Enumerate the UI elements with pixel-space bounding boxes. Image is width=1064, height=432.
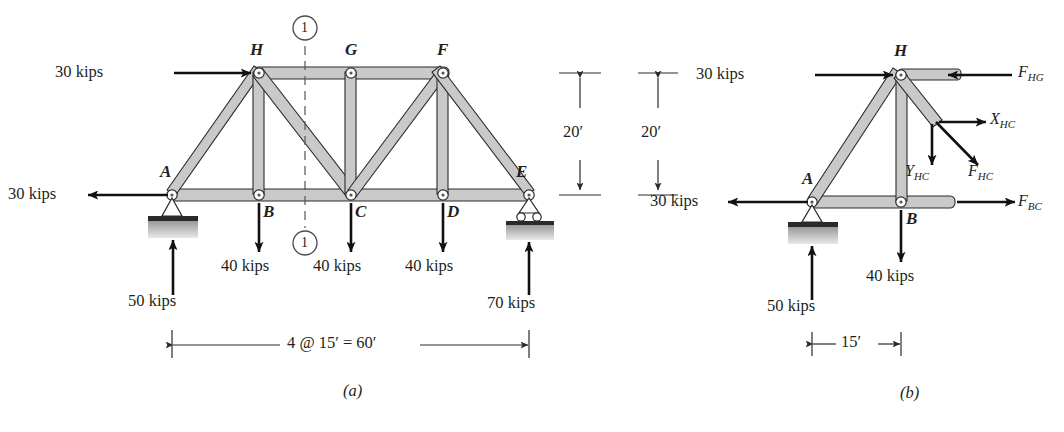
section-marker-top-label: 1 <box>301 21 308 35</box>
caption-b: (b) <box>900 385 919 402</box>
label-50kips-a: 50 kips <box>128 293 176 310</box>
force-label-XHC: XHC <box>990 111 1015 130</box>
label-30kips-left-a: 30 kips <box>8 186 56 203</box>
joint-label-D: D <box>447 203 459 220</box>
label-40kips-B: 40 kips <box>221 258 269 275</box>
joint-label-b-A: A <box>802 170 813 187</box>
label-30kips-top-a: 30 kips <box>55 64 103 81</box>
label-40kips-C: 40 kips <box>313 258 361 275</box>
truss-vector-layer <box>0 0 1064 432</box>
force-symbol: F <box>1018 192 1028 209</box>
pin-support-A-b <box>788 205 838 244</box>
force-subscript: BC <box>1028 200 1042 212</box>
joint-label-G: G <box>345 41 357 58</box>
member-GC <box>345 72 356 194</box>
joint-label-H: H <box>250 41 263 58</box>
member-HC <box>253 68 355 196</box>
label-b-30kips-left: 30 kips <box>650 193 698 210</box>
dimension-label-height-b: 20′ <box>641 124 661 141</box>
member-b-AH <box>808 68 902 204</box>
force-label-YHC: YHC <box>905 163 929 182</box>
member-HB <box>253 72 264 194</box>
caption-a: (a) <box>343 383 362 400</box>
label-b-30kips-top: 30 kips <box>696 66 744 83</box>
joint-label-F: F <box>437 41 448 58</box>
joint-label-b-B: B <box>906 210 917 227</box>
joint-label-B: B <box>263 203 274 220</box>
force-symbol: F <box>968 162 978 179</box>
label-b-50kips: 50 kips <box>767 298 815 315</box>
arrow-b-FHC <box>936 122 978 165</box>
dimension-label-height-a: 20′ <box>563 124 583 141</box>
figure-canvas: 30 kips 30 kips 40 kips 40 kips 40 kips … <box>0 0 1064 432</box>
force-label-FBC: FBC <box>1018 193 1042 212</box>
force-subscript: HC <box>978 170 993 182</box>
force-label-FHG: FHG <box>1018 64 1044 83</box>
label-70kips-a: 70 kips <box>487 295 535 312</box>
panel-b-freebody <box>638 68 1015 356</box>
joint-label-C: C <box>355 203 366 220</box>
member-CF <box>348 68 447 197</box>
joint-label-A: A <box>160 163 171 180</box>
roller-support-E <box>506 198 554 240</box>
force-subscript: HC <box>1000 118 1015 130</box>
dimension-label-span-a: 4 @ 15′ = 60′ <box>287 335 376 352</box>
joint-label-b-H: H <box>894 42 907 59</box>
force-symbol: F <box>1018 63 1028 80</box>
label-40kips-D: 40 kips <box>405 258 453 275</box>
member-AH <box>167 66 262 196</box>
section-marker-bottom-label: 1 <box>301 236 308 250</box>
dimension-label-width-b: 15′ <box>841 334 861 351</box>
label-b-40kips: 40 kips <box>866 268 914 285</box>
force-label-FHC: FHC <box>968 163 993 182</box>
joint-label-E: E <box>516 163 527 180</box>
force-subscript: HG <box>1028 71 1044 83</box>
member-b-bottom-chord <box>810 196 955 208</box>
force-subscript: HC <box>914 170 929 182</box>
pin-support-A <box>148 198 198 238</box>
force-symbol: Y <box>905 162 914 179</box>
force-symbol: X <box>990 110 1000 127</box>
